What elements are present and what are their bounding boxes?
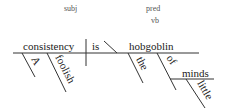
modifier-word-foolish: foolish xyxy=(53,52,78,85)
subject-role-label: subj xyxy=(64,4,77,13)
modifier-word-a: A xyxy=(29,54,43,67)
modifier-word-the: the xyxy=(134,54,151,72)
sentence-diagram: subj pred vb consistency is hobgoblin A … xyxy=(0,0,228,111)
subject-word: consistency xyxy=(23,40,75,52)
preposition-word-of: of xyxy=(164,52,179,67)
prep-object-word: minds xyxy=(182,67,209,79)
verb-word: is xyxy=(92,40,99,52)
predicate-role-label: pred xyxy=(146,4,160,13)
predicate-complement-divider xyxy=(104,41,117,53)
predicate-noun-word: hobgoblin xyxy=(129,40,174,52)
verb-role-label: vb xyxy=(151,16,159,25)
